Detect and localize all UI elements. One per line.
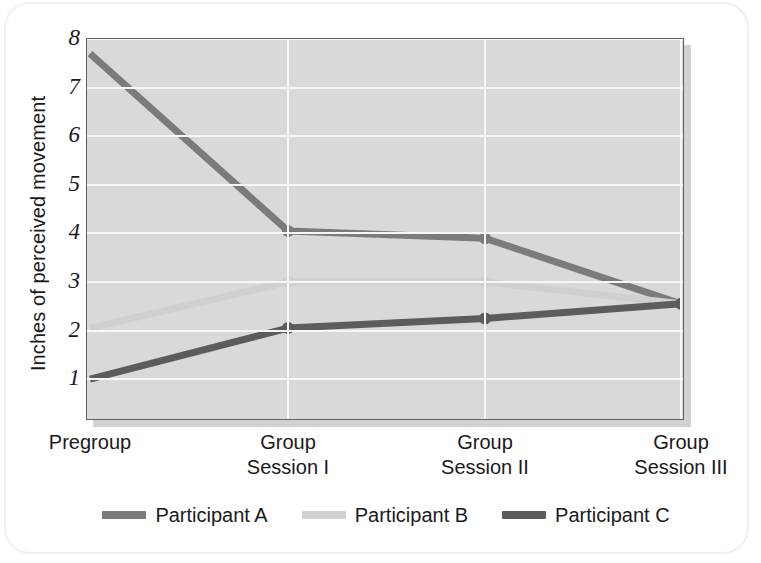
legend-swatch-icon xyxy=(302,511,346,519)
gridline-horizontal xyxy=(87,281,683,283)
gridline-vertical xyxy=(287,39,289,419)
y-tick-label: 3 xyxy=(54,269,80,292)
legend-label: Participant A xyxy=(155,504,267,527)
y-tick-label: 2 xyxy=(54,318,80,341)
y-tick-label: 4 xyxy=(54,220,80,243)
x-tick-label: GroupSession II xyxy=(390,430,580,480)
y-tick-label: 5 xyxy=(54,172,80,195)
legend-item[interactable]: Participant A xyxy=(102,504,267,527)
legend-item[interactable]: Participant B xyxy=(302,504,468,527)
legend-swatch-icon xyxy=(102,511,146,519)
legend-label: Participant B xyxy=(355,504,468,527)
gridline-vertical xyxy=(680,39,682,419)
x-tick-label-line1: Pregroup xyxy=(49,431,131,453)
x-tick-label-line2: Session I xyxy=(193,455,383,480)
y-tick-label: 1 xyxy=(54,366,80,389)
x-tick-label-line2: Session II xyxy=(390,455,580,480)
x-tick-label-line1: Group xyxy=(260,431,316,453)
y-tick-label: 6 xyxy=(54,123,80,146)
gridline-vertical xyxy=(484,39,486,419)
y-axis-title: Inches of perceived movement xyxy=(27,84,50,384)
series-line xyxy=(90,54,681,304)
line-chart: 12345678 Inches of perceived movement Pr… xyxy=(0,0,761,563)
legend-swatch-icon xyxy=(502,511,546,519)
y-tick-label: 8 xyxy=(54,26,80,49)
series-line xyxy=(90,304,681,379)
plot-area xyxy=(86,38,684,420)
x-tick-label: GroupSession I xyxy=(193,430,383,480)
x-tick-label-line1: Group xyxy=(457,431,513,453)
legend-label: Participant C xyxy=(555,504,670,527)
series-layer xyxy=(87,39,682,418)
legend-item[interactable]: Participant C xyxy=(502,504,670,527)
gridline-horizontal xyxy=(87,232,683,234)
gridline-horizontal xyxy=(87,378,683,380)
gridline-horizontal xyxy=(87,135,683,137)
x-tick-label-line2: Session III xyxy=(586,455,761,480)
gridline-horizontal xyxy=(87,87,683,89)
x-tick-label: Pregroup xyxy=(0,430,185,455)
chart-legend: Participant AParticipant BParticipant C xyxy=(86,500,686,530)
x-tick-label: GroupSession III xyxy=(586,430,761,480)
series-1 xyxy=(90,54,682,310)
gridline-horizontal xyxy=(87,184,683,186)
x-tick-label-line1: Group xyxy=(653,431,709,453)
gridline-horizontal xyxy=(87,38,683,40)
y-tick-label: 7 xyxy=(54,75,80,98)
gridline-horizontal xyxy=(87,330,683,332)
